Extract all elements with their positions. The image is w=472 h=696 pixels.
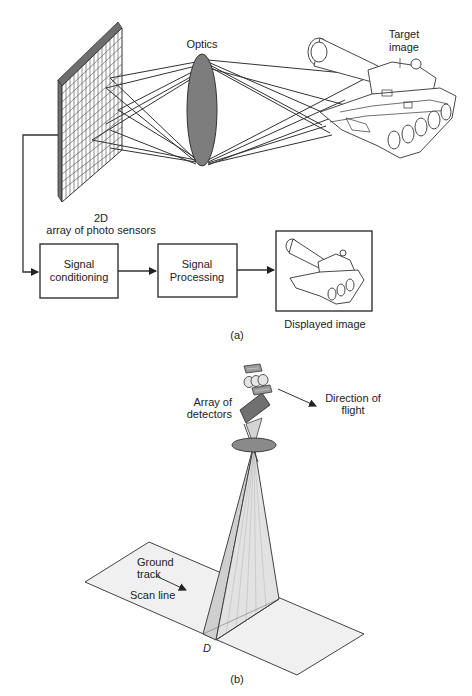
figure-b: Array of detectors Direction of flight G… xyxy=(85,364,382,685)
target-label-line1: Target xyxy=(389,28,420,40)
displayed-image-box xyxy=(276,231,372,311)
direction-of-flight-arrow xyxy=(278,389,316,406)
block-label-line1: Signal xyxy=(64,258,95,270)
block-label-line2: Processing xyxy=(170,271,224,283)
photo-sensor-array xyxy=(58,22,122,202)
scanner-lens xyxy=(232,438,276,452)
ground-track-label-line2: track xyxy=(137,568,161,580)
figure-a: Optics Target image xyxy=(23,22,456,341)
sensor-label-line1: 2D xyxy=(94,212,108,224)
signal-processing-block: Signal Processing xyxy=(158,244,237,297)
caption-a: (a) xyxy=(230,329,243,341)
sensor-label-line2: array of photo sensors xyxy=(46,224,156,236)
detector-array xyxy=(240,393,270,423)
scan-line-label: Scan line xyxy=(130,589,175,601)
signal-conditioning-block: Signal conditioning xyxy=(40,244,118,298)
figure-canvas: Optics Target image xyxy=(0,0,472,696)
satellite-icon xyxy=(244,364,272,395)
displayed-image-label: Displayed image xyxy=(284,318,365,330)
d-marker-label: D xyxy=(203,642,211,654)
caption-b: (b) xyxy=(230,673,243,685)
ground-track-label-line1: Ground xyxy=(137,556,174,568)
optics-label: Optics xyxy=(186,38,218,50)
direction-of-flight-label-line1: Direction of xyxy=(325,392,382,404)
array-of-detectors-label-line1: Array of xyxy=(193,396,232,408)
tank-target-illustration xyxy=(308,38,456,158)
direction-of-flight-label-line2: flight xyxy=(341,404,364,416)
array-of-detectors-label-line2: detectors xyxy=(187,408,233,420)
block-label-line2: conditioning xyxy=(50,271,109,283)
target-label-line2: image xyxy=(389,41,419,53)
block-label-line1: Signal xyxy=(182,258,213,270)
optics-lens xyxy=(187,54,217,166)
